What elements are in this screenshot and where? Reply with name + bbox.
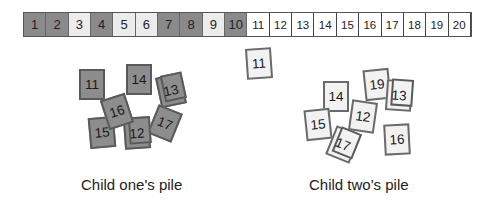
strip-cell-10: 10	[225, 13, 247, 36]
strip-cell-17: 17	[382, 13, 404, 36]
card-number: 13	[162, 82, 180, 100]
strip-cell-5: 5	[113, 13, 135, 36]
card-number: 12	[355, 108, 372, 125]
card-number: 12	[129, 125, 145, 141]
pile-two-card-16: 16	[383, 123, 411, 155]
pile-two-card-12: 12	[348, 99, 378, 133]
strip-cell-20: 20	[449, 13, 471, 36]
strip-cell-19: 19	[426, 13, 448, 36]
pile-one-card-11: 11	[79, 69, 105, 100]
strip-cell-13: 13	[292, 13, 314, 36]
strip-cell-9: 9	[203, 13, 225, 36]
pile-two-card-13: 13	[385, 79, 413, 112]
loose-card-11: 11	[245, 47, 273, 80]
card-number: 19	[369, 76, 386, 92]
card-number: 11	[251, 56, 266, 72]
number-strip: 1234567891011121314151617181920	[23, 12, 472, 37]
strip-cell-1: 1	[24, 13, 46, 36]
strip-cell-3: 3	[69, 13, 91, 36]
pile-one-card-14: 14	[126, 64, 152, 95]
strip-cell-14: 14	[314, 13, 336, 36]
strip-cell-4: 4	[91, 13, 113, 36]
card-number: 14	[328, 89, 343, 104]
strip-cell-16: 16	[359, 13, 381, 36]
card-number: 11	[85, 77, 99, 92]
child-two-pile-label: Child two's pile	[309, 176, 409, 193]
strip-cell-15: 15	[337, 13, 359, 36]
strip-cell-7: 7	[158, 13, 180, 36]
card-number: 15	[310, 116, 327, 132]
child-one-pile-label: Child one's pile	[81, 176, 182, 193]
strip-cell-12: 12	[270, 13, 292, 36]
strip-cell-6: 6	[136, 13, 158, 36]
pile-one-card-13: 13	[155, 73, 187, 109]
card-number: 14	[131, 72, 146, 87]
pile-two-card-15: 15	[303, 108, 332, 142]
strip-cell-18: 18	[404, 13, 426, 36]
card-number: 17	[155, 114, 175, 134]
card-number: 13	[391, 87, 407, 103]
card-number: 16	[108, 102, 127, 121]
card-number: 16	[389, 132, 405, 148]
strip-cell-2: 2	[46, 13, 68, 36]
pile-one-card-17: 17	[147, 104, 183, 142]
strip-cell-11: 11	[247, 13, 269, 36]
card-number: 17	[333, 135, 353, 155]
strip-cell-8: 8	[180, 13, 202, 36]
